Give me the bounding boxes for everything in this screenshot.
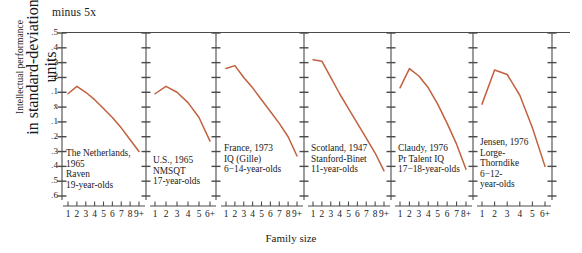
axis-rule-4 bbox=[387, 33, 396, 200]
series-line-panel-2 bbox=[155, 86, 210, 141]
x-axis-panel-2 bbox=[150, 202, 216, 207]
x-axis-title: Family size bbox=[0, 232, 582, 244]
series-line-panel-4 bbox=[313, 60, 384, 171]
series-line-panel-1 bbox=[68, 86, 139, 151]
axis-rule-3 bbox=[300, 33, 309, 200]
axis-rule-2 bbox=[212, 33, 221, 200]
series-line-panel-3 bbox=[226, 66, 297, 156]
x-axis-panel-1 bbox=[63, 202, 145, 207]
x-axis-panel-5 bbox=[395, 202, 472, 207]
axis-rule-6 bbox=[548, 33, 557, 200]
plot-canvas bbox=[0, 0, 582, 253]
axis-rule-0 bbox=[58, 33, 67, 200]
axis-rule-1 bbox=[142, 33, 151, 200]
x-axis-panel-6 bbox=[477, 202, 551, 207]
series-line-panel-6 bbox=[482, 70, 545, 166]
x-axis-panel-3 bbox=[221, 202, 303, 207]
figure-root: minus 5x Intellectual performance in sta… bbox=[0, 0, 582, 253]
series-line-panel-5 bbox=[400, 69, 466, 170]
axis-rule-5 bbox=[469, 33, 478, 200]
x-axis-panel-4 bbox=[308, 202, 390, 207]
